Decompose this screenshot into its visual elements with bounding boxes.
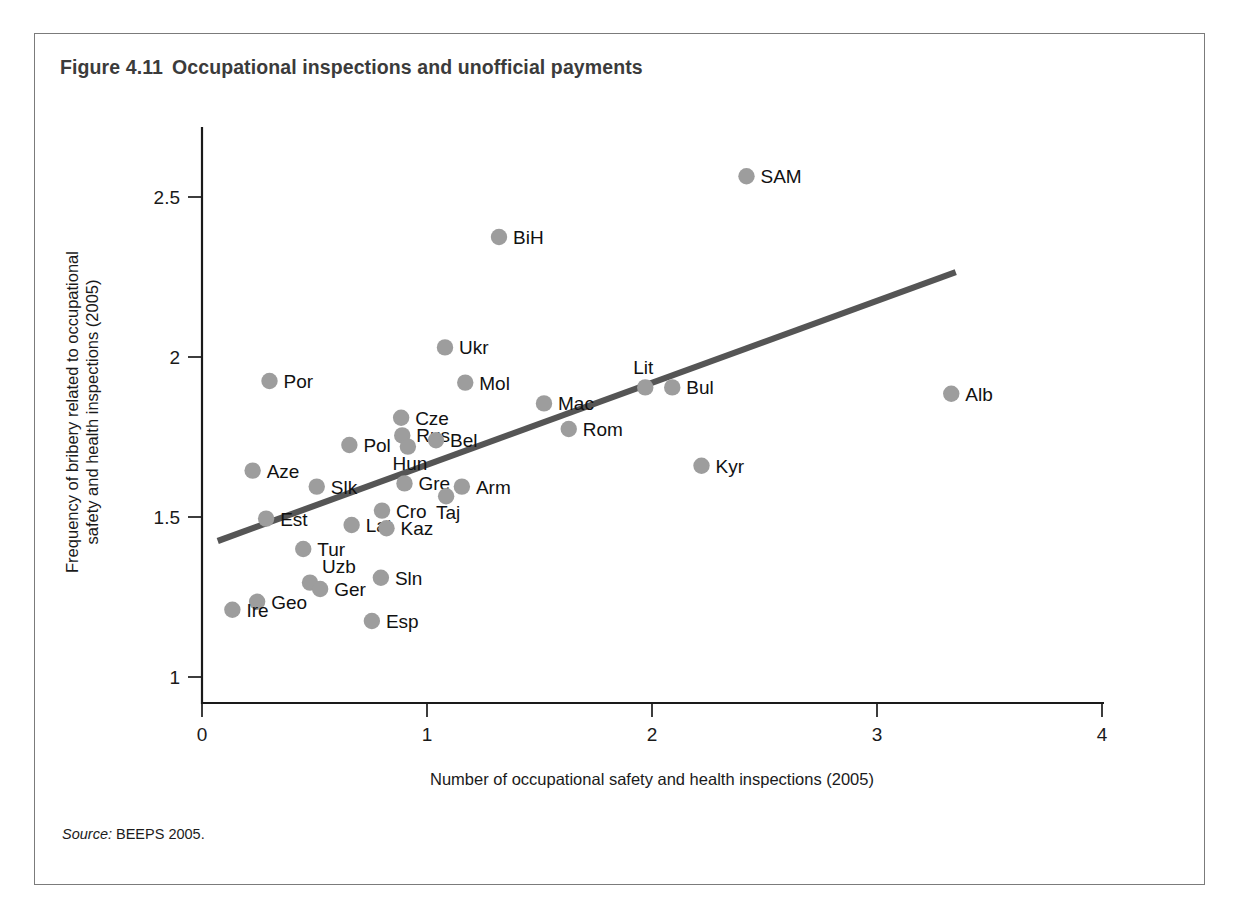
- data-point-label: Esp: [386, 611, 419, 632]
- y-tick-label: 2: [169, 347, 180, 368]
- source-text: BEEPS 2005.: [116, 826, 205, 842]
- data-point-marker: [457, 374, 473, 390]
- data-point-marker: [312, 581, 328, 597]
- data-point-marker: [637, 379, 653, 395]
- data-point-label: Mol: [479, 373, 510, 394]
- data-point-label: Slk: [331, 477, 358, 498]
- data-point-label: Kyr: [716, 456, 745, 477]
- x-axis-title: Number of occupational safety and health…: [430, 770, 874, 788]
- data-point-marker: [378, 520, 394, 536]
- source-label: Source:: [62, 826, 112, 842]
- data-point-label: Alb: [965, 384, 992, 405]
- x-tick-label: 1: [422, 724, 433, 745]
- y-tick-label: 1.5: [154, 507, 180, 528]
- y-axis-title: safety and health inspections (2005): [83, 279, 101, 544]
- data-point-label: Bul: [686, 377, 713, 398]
- y-tick-label: 2.5: [154, 187, 180, 208]
- data-point-marker: [258, 510, 274, 526]
- x-tick-label: 0: [197, 724, 208, 745]
- data-point-label: Bel: [450, 430, 477, 451]
- data-point-label: Pol: [363, 435, 390, 456]
- data-point-label: Ukr: [459, 337, 489, 358]
- data-point-label: Ire: [246, 600, 268, 621]
- data-point-marker: [536, 395, 552, 411]
- data-point-marker: [738, 168, 754, 184]
- data-point-label: Aze: [267, 461, 300, 482]
- data-point-label: Uzb: [322, 556, 356, 577]
- source-note: Source: BEEPS 2005.: [62, 826, 205, 842]
- data-point-marker: [341, 437, 357, 453]
- data-point-label: Geo: [271, 592, 307, 613]
- data-point-marker: [664, 379, 680, 395]
- data-point-marker: [454, 478, 470, 494]
- data-point-marker: [943, 386, 959, 402]
- data-point-label: Taj: [436, 502, 460, 523]
- data-point-marker: [343, 517, 359, 533]
- data-point-marker: [396, 475, 412, 491]
- data-point-label: BiH: [513, 227, 544, 248]
- data-point-marker: [428, 432, 444, 448]
- data-point-label: Sln: [395, 568, 422, 589]
- y-axis-title: Frequency of bribery related to occupati…: [63, 251, 81, 573]
- data-point-marker: [491, 229, 507, 245]
- data-point-marker: [244, 462, 260, 478]
- data-point-label: Lit: [633, 357, 654, 378]
- data-point-label: SAM: [761, 166, 802, 187]
- scatter-chart: 11.522.501234 SAMBiHUkrPorMolLitBulAlbMa…: [0, 0, 1237, 923]
- data-point-label: Est: [280, 509, 308, 530]
- data-point-marker: [261, 373, 277, 389]
- data-point-label: Arm: [476, 477, 511, 498]
- data-point-label: Ger: [334, 579, 366, 600]
- data-point-marker: [393, 410, 409, 426]
- data-point-marker: [693, 458, 709, 474]
- data-point-marker: [561, 421, 577, 437]
- y-tick-label: 1: [169, 667, 180, 688]
- data-point-label: Hun: [392, 453, 427, 474]
- axis-spines: [202, 127, 1104, 703]
- data-point-label: Por: [284, 371, 314, 392]
- data-point-label: Rom: [583, 419, 623, 440]
- data-point-marker: [295, 541, 311, 557]
- axes-group: [202, 127, 1104, 703]
- x-tick-label: 2: [647, 724, 658, 745]
- data-point-marker: [224, 602, 240, 618]
- data-point-label: Mac: [558, 393, 594, 414]
- data-point-marker: [364, 613, 380, 629]
- data-point-marker: [309, 478, 325, 494]
- x-tick-label: 3: [872, 724, 883, 745]
- data-point-label: Kaz: [401, 518, 434, 539]
- x-tick-label: 4: [1097, 724, 1108, 745]
- data-point-marker: [437, 339, 453, 355]
- chart-canvas: 11.522.501234 SAMBiHUkrPorMolLitBulAlbMa…: [0, 0, 1237, 923]
- axis-titles-group: Number of occupational safety and health…: [63, 251, 874, 788]
- data-point-marker: [373, 570, 389, 586]
